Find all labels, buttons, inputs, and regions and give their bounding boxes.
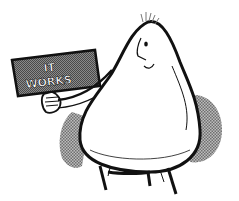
character-body — [80, 22, 200, 172]
it-works-illustration: IT WORKS — [0, 0, 239, 201]
sign-board: IT WORKS — [12, 50, 100, 96]
hand — [42, 92, 61, 113]
sign-line-1: IT — [43, 61, 56, 75]
